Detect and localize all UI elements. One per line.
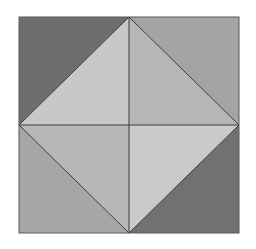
square-diamond-diagram — [0, 0, 256, 249]
